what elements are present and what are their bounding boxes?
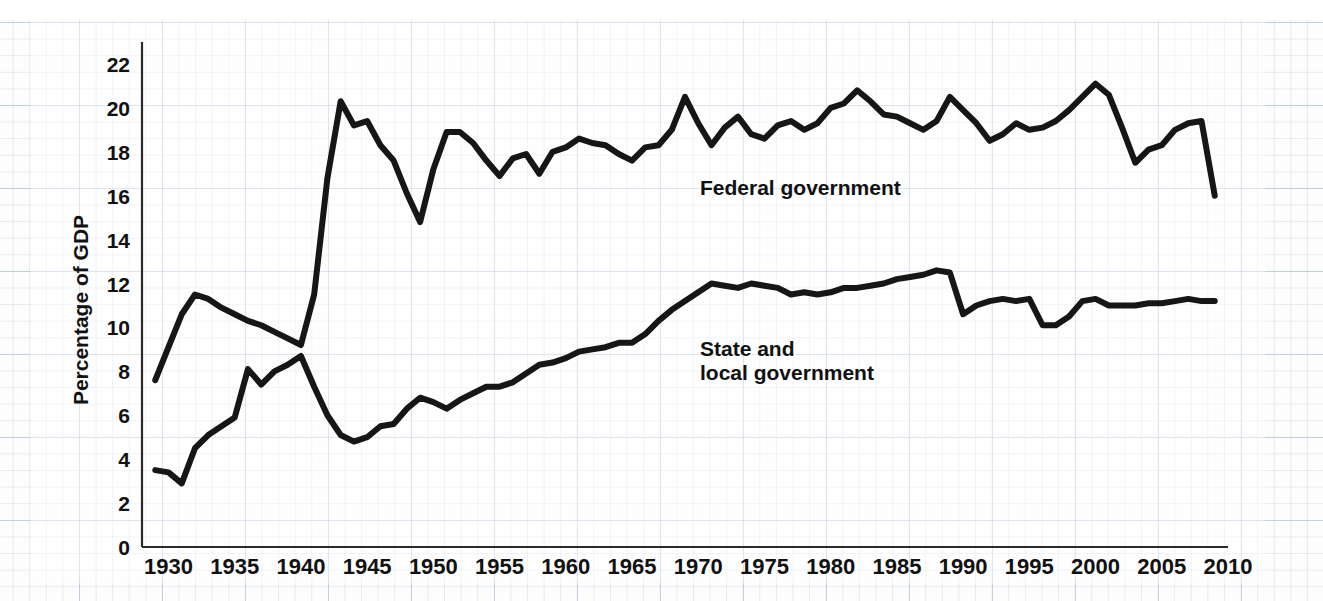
y-tick-label: 2 bbox=[118, 492, 130, 515]
x-tick-label: 1985 bbox=[872, 554, 921, 579]
y-tick-label: 6 bbox=[118, 404, 130, 427]
x-tick-label: 1980 bbox=[806, 554, 855, 579]
x-tick-label: 1955 bbox=[475, 554, 524, 579]
x-tick-label: 1935 bbox=[210, 554, 259, 579]
x-tick-label: 2000 bbox=[1071, 554, 1120, 579]
y-tick-label: 4 bbox=[118, 448, 130, 471]
y-tick-label: 0 bbox=[118, 536, 130, 559]
x-tick-label: 1960 bbox=[541, 554, 590, 579]
line-chart: 0246810121416182022 19301935194019451950… bbox=[0, 0, 1323, 601]
series-line-federal-government bbox=[155, 84, 1215, 380]
annotation-state-local-line1: State and bbox=[700, 337, 795, 360]
x-tick-label: 1965 bbox=[608, 554, 657, 579]
annotation-state-local-line2: local government bbox=[700, 361, 874, 384]
x-axis-ticks: 1930193519401945195019551960196519701975… bbox=[144, 554, 1252, 579]
x-tick-label: 1930 bbox=[144, 554, 193, 579]
y-tick-label: 16 bbox=[107, 185, 130, 208]
x-tick-label: 1970 bbox=[674, 554, 723, 579]
y-tick-label: 10 bbox=[107, 316, 130, 339]
y-axis-title: Percentage of GDP bbox=[69, 215, 92, 405]
y-tick-label: 8 bbox=[118, 360, 130, 383]
y-tick-label: 12 bbox=[107, 273, 130, 296]
y-tick-label: 20 bbox=[107, 97, 130, 120]
y-tick-label: 22 bbox=[107, 53, 130, 76]
x-tick-label: 2005 bbox=[1137, 554, 1186, 579]
y-tick-label: 14 bbox=[107, 229, 131, 252]
x-tick-label: 1975 bbox=[740, 554, 789, 579]
y-tick-label: 18 bbox=[107, 141, 131, 164]
x-tick-label: 1940 bbox=[276, 554, 325, 579]
chart-svg: 0246810121416182022 19301935194019451950… bbox=[0, 0, 1323, 601]
y-axis-ticks: 0246810121416182022 bbox=[107, 53, 131, 559]
x-tick-label: 1990 bbox=[939, 554, 988, 579]
x-tick-label: 1945 bbox=[343, 554, 392, 579]
annotation-federal-government: Federal government bbox=[700, 176, 901, 199]
x-tick-label: 1950 bbox=[409, 554, 458, 579]
x-tick-label: 1995 bbox=[1005, 554, 1054, 579]
x-tick-label: 2010 bbox=[1204, 554, 1253, 579]
